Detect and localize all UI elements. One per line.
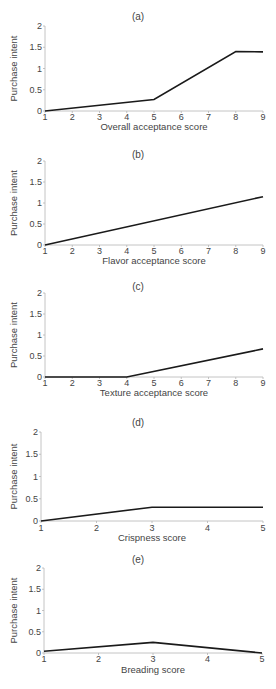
x-tick-label: 2 [70,246,75,256]
chart-title: (a) [132,11,144,22]
x-tick-label: 8 [233,378,238,388]
x-tick-label: 2 [70,112,75,122]
x-tick-label: 1 [42,112,47,122]
y-tick-label: 1.5 [25,449,38,459]
x-axis-label: Overall acceptance score [100,121,207,132]
y-tick-label: 0 [37,372,42,382]
y-tick-label: 0 [37,106,42,116]
data-line [45,197,263,245]
x-tick-label: 2 [70,378,75,388]
chart-panel-b: (b)00.511.52123456789Flavor acceptance s… [0,135,276,265]
y-tick-label: 0.5 [29,219,42,229]
data-line [41,507,263,521]
y-tick-label: 1 [37,198,42,208]
y-tick-label: 1 [37,330,42,340]
y-axis-label: Purchase intent [8,443,19,509]
chart-title: (b) [132,149,144,160]
y-tick-label: 1 [33,472,38,482]
line-chart-breading: (e)00.511.5212345Breading scorePurchase … [0,545,276,689]
y-tick-label: 2 [36,563,41,573]
y-tick-label: 0 [33,516,38,526]
x-tick-label: 3 [150,654,155,664]
x-tick-label: 5 [259,654,264,664]
x-axis-label: Breading score [121,664,185,675]
x-tick-label: 2 [94,523,99,533]
x-tick-label: 1 [42,246,47,256]
y-axis-label: Purchase intent [8,577,19,643]
x-tick-label: 4 [205,654,210,664]
x-tick-label: 1 [38,523,43,533]
y-tick-label: 0.5 [29,85,42,95]
y-tick-label: 1 [36,606,41,616]
y-tick-label: 1 [37,64,42,74]
y-axis-label: Purchase intent [8,302,19,368]
data-line [45,52,263,112]
x-tick-label: 9 [260,246,265,256]
chart-panel-c: (c)00.511.52123456789Texture acceptance … [0,265,276,395]
chart-panel-a: (a)00.511.52123456789Overall acceptance … [0,0,276,135]
chart-title: (c) [132,281,144,292]
y-tick-label: 2 [37,288,42,298]
line-chart-texture-acceptance: (c)00.511.52123456789Texture acceptance … [0,265,276,395]
y-tick-label: 1.5 [29,177,42,187]
x-tick-label: 8 [233,112,238,122]
y-tick-label: 0 [37,240,42,250]
x-tick-label: 5 [260,523,265,533]
x-tick-label: 1 [42,378,47,388]
data-line [44,642,262,653]
data-line [45,349,263,377]
x-tick-label: 9 [260,112,265,122]
y-axis-label: Purchase intent [8,35,19,101]
line-chart-crispness: (d)00.511.5212345Crispness scorePurchase… [0,395,276,545]
y-tick-label: 2 [37,156,42,166]
x-tick-label: 1 [41,654,46,664]
y-tick-label: 0 [36,648,41,658]
y-tick-label: 0.5 [28,627,41,637]
chart-panel-d: (d)00.511.5212345Crispness scorePurchase… [0,395,276,545]
x-tick-label: 8 [233,246,238,256]
y-tick-label: 1.5 [29,309,42,319]
x-tick-label: 7 [206,246,211,256]
chart-title: (d) [132,417,144,428]
y-tick-label: 1.5 [28,584,41,594]
y-tick-label: 2 [33,427,38,437]
x-axis-label: Crispness score [118,532,186,543]
line-chart-flavor-acceptance: (b)00.511.52123456789Flavor acceptance s… [0,135,276,265]
y-tick-label: 0.5 [29,351,42,361]
y-axis-label: Purchase intent [8,170,19,236]
chart-panel-e: (e)00.511.5212345Breading scorePurchase … [0,545,276,689]
x-tick-label: 2 [96,654,101,664]
x-tick-label: 4 [205,523,210,533]
y-tick-label: 0.5 [25,494,38,504]
x-tick-label: 9 [260,378,265,388]
line-chart-overall-acceptance: (a)00.511.52123456789Overall acceptance … [0,0,276,135]
chart-title: (e) [132,554,144,565]
x-tick-label: 3 [97,246,102,256]
y-tick-label: 1.5 [29,42,42,52]
y-tick-label: 2 [37,21,42,31]
